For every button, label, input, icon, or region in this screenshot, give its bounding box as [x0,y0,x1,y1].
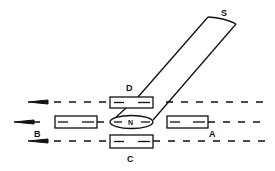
compass-b [55,116,97,128]
label-c: C [127,154,134,164]
compass-c [110,135,153,148]
label-s: S [221,8,227,18]
label-n: N [128,119,133,126]
magnet-diagram: S N D C B A [0,0,275,171]
arrow-left-lower [28,139,48,143]
compass-a [167,116,208,128]
label-d: D [126,83,133,93]
label-a: A [209,129,216,139]
arrow-left-upper [28,100,48,104]
label-b: B [34,129,41,139]
arrow-left-middle [14,120,40,124]
south-pole-end [208,17,236,24]
compass-d [110,97,153,108]
